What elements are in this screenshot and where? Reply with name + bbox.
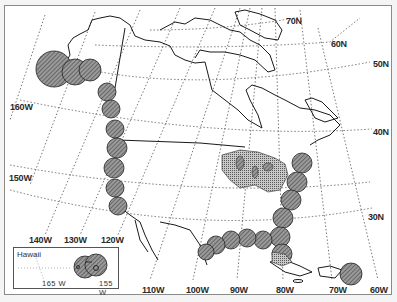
lat-label-70n: 70N [286,17,302,26]
lat-label-50n: 50N [373,60,389,69]
lon-label-60w: 60W [370,286,388,295]
alaska-coast [66,16,205,63]
lat-label-60n: 60N [331,40,347,49]
lon-label-150w: 150W [9,174,32,183]
lat-label-40n: 40N [373,128,389,137]
hawaii-inset-title: Hawaii [17,250,41,259]
lon-label-80w: 80W [276,286,294,295]
hispaniola [318,266,342,278]
lat-label-30n: 30N [368,213,384,222]
lon-label-90w: 90W [230,286,248,295]
mexico-coast [121,208,158,260]
hawaii-label-165w: 165 W [42,279,66,288]
lon-label-100w: 100W [186,286,209,295]
arctic-islands [160,18,275,72]
lon-label-120w: 120W [101,236,124,245]
hudson-bay [205,62,340,145]
lon-label-130w: 130W [64,236,87,245]
lon-label-140w: 140W [29,236,52,245]
hawaii-inset: Hawaii 165 W 155 W [13,247,119,289]
hawaii-label-155w: 155 W [99,279,118,297]
us-canada-border [118,140,245,147]
lon-label-110w: 110W [142,286,164,295]
lon-label-70w: 70W [329,286,347,295]
lon-label-160w: 160W [10,103,33,112]
alaska-canada-border [115,28,125,88]
